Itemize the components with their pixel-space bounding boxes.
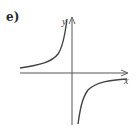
x-axis-label: x (123, 75, 129, 86)
curve-branch-quadrant-ii (20, 19, 67, 68)
curve-branch-quadrant-iv (78, 79, 127, 124)
hyperbola-graph: y x (0, 0, 137, 132)
